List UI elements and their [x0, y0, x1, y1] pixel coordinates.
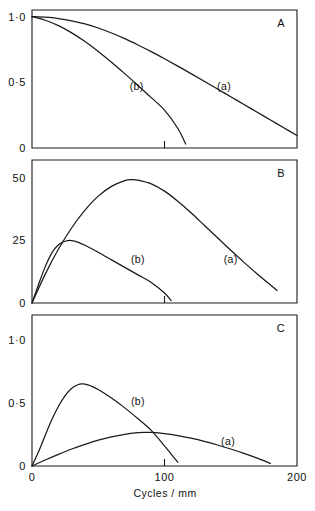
y-tick-label: 0·5 [8, 76, 26, 88]
panels-group: 00·51·0(a)(b)A02550(a)(b)B00·51·0(a)(b)C… [8, 10, 307, 483]
curve-label-a: (a) [224, 253, 238, 265]
curve-label-a: (a) [221, 435, 235, 447]
y-tick-label: 0 [19, 460, 26, 472]
panel-label-a: A [277, 17, 285, 29]
panel-frame [32, 10, 297, 148]
y-tick-label: 1·0 [8, 11, 26, 23]
curve-label-b: (b) [130, 80, 144, 92]
y-tick-label: 1·0 [8, 334, 26, 346]
multi-panel-line-chart: 00·51·0(a)(b)A02550(a)(b)B00·51·0(a)(b)C… [0, 0, 315, 511]
x-tick-label: 200 [287, 471, 307, 483]
curve-label-a: (a) [217, 80, 231, 92]
y-tick-label: 25 [13, 234, 26, 246]
y-tick-label: 0·5 [8, 397, 26, 409]
panel-a: 00·51·0(a)(b)A [8, 10, 297, 154]
y-tick-label: 0 [19, 142, 26, 154]
y-tick-label: 0 [19, 297, 26, 309]
curve-b [32, 17, 186, 144]
curve-a [32, 17, 297, 136]
curve-b [32, 384, 178, 466]
y-tick-label: 50 [13, 172, 26, 184]
panel-frame [32, 160, 297, 303]
panel-label-b: B [277, 167, 285, 179]
panel-frame [32, 315, 297, 466]
panel-c: 00·51·0(a)(b)C0100200 [8, 315, 307, 483]
x-tick-label: 0 [29, 471, 36, 483]
curve-label-b: (b) [131, 253, 145, 265]
curve-label-b: (b) [131, 395, 145, 407]
panel-label-c: C [277, 322, 285, 334]
panel-b: 02550(a)(b)B [13, 160, 297, 309]
curve-b [32, 240, 171, 303]
x-axis-title: Cycles / mm [133, 487, 196, 499]
figure-container: 00·51·0(a)(b)A02550(a)(b)B00·51·0(a)(b)C… [0, 0, 315, 511]
x-tick-label: 100 [154, 471, 174, 483]
